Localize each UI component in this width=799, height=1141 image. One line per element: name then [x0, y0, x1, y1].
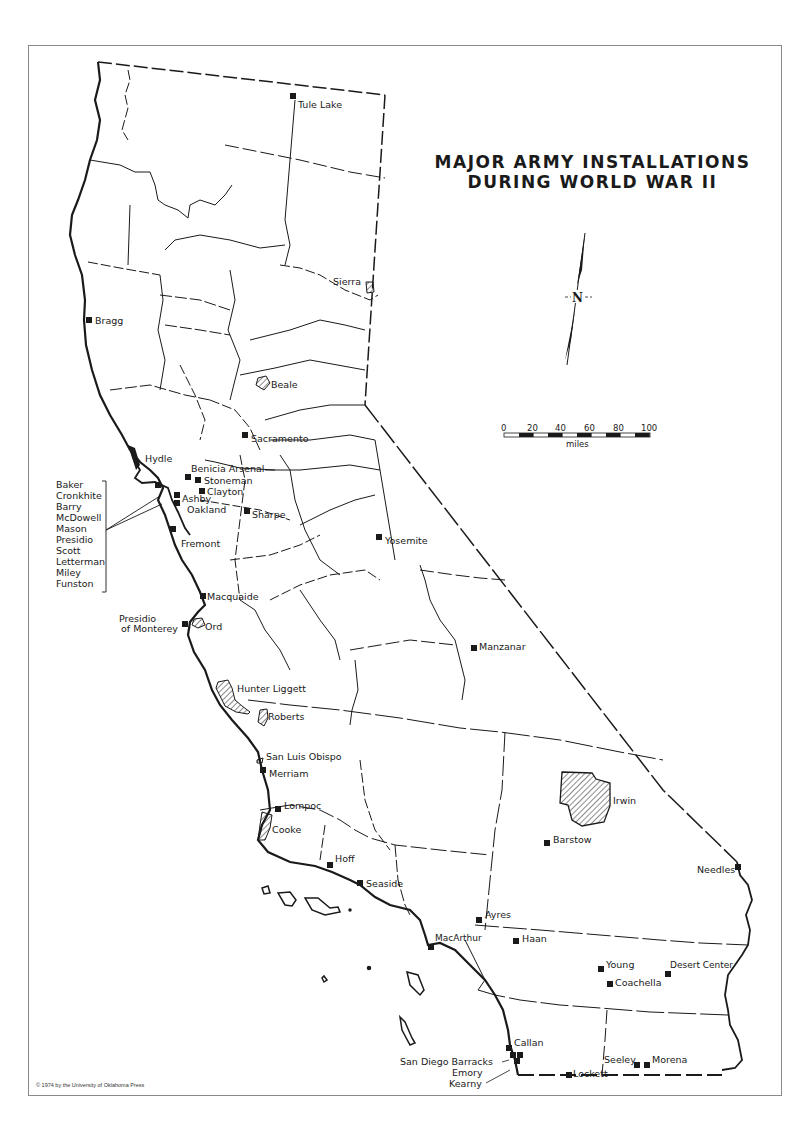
label-benicia: Benicia Arsenal — [191, 463, 264, 474]
marker-needles[interactable] — [735, 864, 741, 870]
marker-fremont[interactable] — [170, 526, 176, 532]
sf-item-mason: Mason — [56, 523, 87, 534]
marker-manzanar[interactable] — [471, 645, 477, 651]
marker-ashby[interactable] — [174, 492, 180, 498]
scale-unit: miles — [566, 439, 589, 449]
scale-tick-0: 0 — [501, 423, 506, 433]
marker-macquaide[interactable] — [200, 593, 206, 599]
label-presidio-monterey-2: of Monterey — [121, 623, 178, 634]
marker-sharpe[interactable] — [244, 508, 250, 514]
tomales-bay — [128, 445, 140, 470]
marker-hydle[interactable] — [155, 482, 161, 488]
label-irwin: Irwin — [613, 795, 636, 806]
label-sharpe: Sharpe — [252, 509, 286, 520]
coastline — [70, 62, 518, 1075]
label-fremont: Fremont — [181, 538, 220, 549]
copyright-notice: © 1974 by the University of Oklahoma Pre… — [36, 1082, 144, 1088]
scale-tick-80: 80 — [613, 423, 624, 433]
beale-area — [256, 376, 270, 390]
scale-tick-20: 20 — [527, 423, 538, 433]
marker-ayres[interactable] — [476, 917, 482, 923]
point-installations — [86, 93, 741, 1078]
label-yosemite: Yosemite — [384, 535, 428, 546]
label-bragg: Bragg — [95, 315, 123, 326]
area-installations — [192, 282, 610, 840]
marker-sacramento[interactable] — [242, 432, 248, 438]
label-lompoc: Lompoc — [284, 800, 321, 811]
label-emory: Emory — [452, 1067, 483, 1078]
scale-tick-100: 100 — [641, 423, 657, 433]
label-hoff: Hoff — [335, 853, 355, 864]
label-needles: Needles — [697, 864, 735, 875]
marker-kearny[interactable] — [514, 1058, 520, 1064]
label-macarthur: MacArthur — [435, 933, 482, 943]
san-luis-obispo-area — [257, 758, 263, 763]
label-manzanar: Manzanar — [479, 641, 526, 652]
label-barstow: Barstow — [553, 834, 592, 845]
sierra-area — [366, 282, 374, 293]
ord-area — [192, 618, 205, 628]
marker-tule-lake[interactable] — [290, 93, 296, 99]
irwin-area — [560, 772, 610, 826]
north-arrow-icon: N — [565, 233, 592, 365]
marker-lompoc[interactable] — [275, 806, 281, 812]
installation-labels: Tule Lake Sierra Bragg Beale Sacramento … — [95, 99, 735, 1089]
label-coachella: Coachella — [615, 977, 661, 988]
marker-hoff[interactable] — [327, 862, 333, 868]
marker-emory[interactable] — [517, 1052, 523, 1058]
marker-seaside[interactable] — [357, 880, 363, 886]
label-hunter-liggett: Hunter Liggett — [237, 683, 306, 694]
label-roberts: Roberts — [268, 711, 304, 722]
marker-desert-center[interactable] — [665, 971, 671, 977]
label-seaside: Seaside — [366, 878, 403, 889]
sf-group-list: Baker Cronkhite Barry McDowell Mason Pre… — [56, 479, 105, 589]
label-beale: Beale — [271, 379, 298, 390]
sf-bracket — [102, 481, 162, 592]
marker-oakland[interactable] — [174, 500, 180, 506]
marker-callan[interactable] — [506, 1045, 512, 1051]
label-young: Young — [605, 959, 634, 970]
marker-morena[interactable] — [644, 1062, 650, 1068]
roberts-area — [258, 709, 268, 726]
sf-item-baker: Baker — [56, 479, 83, 490]
sf-item-miley: Miley — [56, 567, 81, 578]
label-ord: Ord — [205, 621, 222, 632]
label-clayton: Clayton — [207, 486, 243, 497]
county-boundaries — [88, 70, 748, 1075]
marker-presidio-monterey[interactable] — [182, 621, 188, 627]
label-hydle: Hydle — [145, 453, 172, 464]
marker-lockett[interactable] — [566, 1072, 572, 1078]
channel-islands — [262, 886, 424, 1045]
label-sd-barracks: San Diego Barracks — [400, 1056, 493, 1067]
sf-item-cronkhite: Cronkhite — [56, 490, 102, 501]
label-morena: Morena — [652, 1054, 687, 1065]
label-cooke: Cooke — [272, 824, 301, 835]
scale-tick-40: 40 — [555, 423, 566, 433]
marker-sd-barracks[interactable] — [510, 1052, 516, 1058]
label-oakland: Oakland — [187, 504, 226, 515]
marker-coachella[interactable] — [607, 981, 613, 987]
marker-merriam[interactable] — [260, 767, 266, 773]
label-tule-lake: Tule Lake — [297, 99, 342, 110]
marker-haan[interactable] — [513, 938, 519, 944]
label-haan: Haan — [522, 933, 547, 944]
north-label: N — [572, 291, 583, 305]
label-callan: Callan — [514, 1037, 544, 1048]
label-kearny: Kearny — [449, 1078, 482, 1089]
marker-barstow[interactable] — [544, 840, 550, 846]
sf-item-mcdowell: McDowell — [56, 512, 101, 523]
marker-bragg[interactable] — [86, 317, 92, 323]
label-sacramento: Sacramento — [251, 433, 309, 444]
nevada-border-north — [365, 95, 385, 405]
label-desert-center: Desert Center — [670, 960, 733, 970]
scale-bar: 0 20 40 60 80 100 miles — [501, 423, 657, 449]
marker-macarthur[interactable] — [428, 944, 434, 950]
california-map: Tule Lake Sierra Bragg Beale Sacramento … — [0, 0, 799, 1141]
marker-benicia[interactable] — [185, 474, 191, 480]
label-merriam: Merriam — [269, 768, 308, 779]
label-san-luis-obispo: San Luis Obispo — [266, 751, 342, 762]
marker-young[interactable] — [598, 966, 604, 972]
label-macquaide: Macquaide — [207, 591, 259, 602]
marker-stoneman[interactable] — [195, 477, 201, 483]
marker-yosemite[interactable] — [376, 534, 382, 540]
